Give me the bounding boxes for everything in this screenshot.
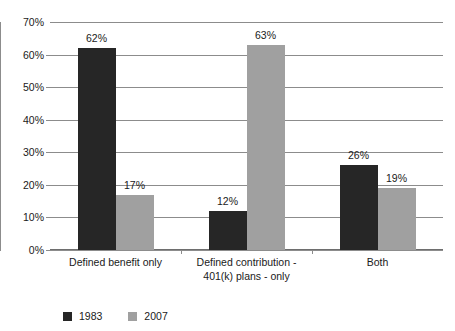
y-axis-tick-label: 70% — [2, 17, 44, 27]
y-axis-tick-label: 60% — [2, 50, 44, 60]
y-axis-tick-mark — [46, 250, 50, 251]
category-separator-tick — [312, 250, 313, 254]
bar-1983-2 — [209, 211, 247, 250]
legend-swatch-2007 — [128, 312, 137, 321]
bar-1983-1 — [78, 48, 116, 250]
y-axis-tick-mark — [46, 120, 50, 121]
legend-swatch-1983 — [63, 312, 72, 321]
gridline — [50, 250, 443, 251]
bar-chart: 70%60%50%40%30%20%10%0% 62%17%12%63%26%1… — [0, 0, 455, 331]
legend-label: 2007 — [144, 311, 167, 321]
bar-value-label: 17% — [104, 180, 166, 191]
bar-2007-2 — [247, 45, 285, 250]
category-label: Both — [312, 256, 443, 270]
y-axis-tick-mark — [46, 152, 50, 153]
bar-value-label: 26% — [328, 150, 390, 161]
chart-legend: 19832007 — [63, 311, 194, 321]
bar-2007-1 — [116, 195, 154, 250]
y-axis-labels: 70%60%50%40%30%20%10%0% — [0, 22, 44, 250]
y-axis-tick-mark — [46, 55, 50, 56]
x-axis-category-labels: Defined benefit onlyDefined contribution… — [50, 256, 443, 296]
y-axis-tick-mark — [46, 87, 50, 88]
bar-value-label: 19% — [366, 173, 428, 184]
y-axis-tick-label: 20% — [2, 180, 44, 190]
y-axis-tick-mark — [46, 185, 50, 186]
y-axis-tick-label: 50% — [2, 82, 44, 92]
category-label: Defined benefit only — [50, 256, 181, 270]
legend-label: 1983 — [79, 311, 102, 321]
legend-item-1983: 1983 — [63, 311, 102, 321]
y-axis-tick-label: 0% — [2, 245, 44, 255]
bar-2007-3 — [378, 188, 416, 250]
bar-value-label: 63% — [235, 30, 297, 41]
gridline — [50, 22, 443, 23]
y-axis-tick-mark — [46, 217, 50, 218]
category-label: Defined contribution -401(k) plans - onl… — [181, 256, 312, 283]
y-axis-tick-label: 40% — [2, 115, 44, 125]
legend-item-2007: 2007 — [128, 311, 167, 321]
y-axis-line — [0, 22, 1, 251]
category-separator-tick — [181, 250, 182, 254]
y-axis-tick-label: 30% — [2, 147, 44, 157]
y-axis-tick-label: 10% — [2, 212, 44, 222]
plot-area: 62%17%12%63%26%19% — [50, 22, 443, 250]
bar-value-label: 62% — [66, 33, 128, 44]
